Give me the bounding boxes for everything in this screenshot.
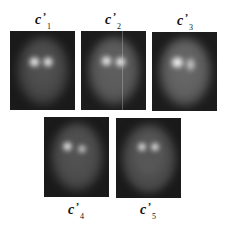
panel-label-c5: c’5 <box>140 203 156 219</box>
scan-image-c4 <box>44 117 109 197</box>
head-region <box>123 124 175 192</box>
scan-image-c3 <box>152 32 217 111</box>
label-base: c <box>35 12 41 27</box>
scan-image-c1 <box>10 31 75 110</box>
bright-spot-left <box>63 142 72 151</box>
label-prime: ’ <box>42 10 46 22</box>
label-base: c <box>177 13 183 28</box>
label-subscript: 4 <box>80 212 84 221</box>
label-prime: ’ <box>184 11 188 23</box>
label-base: c <box>105 12 111 27</box>
bright-spot-left <box>29 57 40 67</box>
label-prime: ’ <box>75 200 79 212</box>
panel-label-c1: c’1 <box>35 13 51 29</box>
label-subscript: 2 <box>117 22 121 31</box>
bright-spot-right <box>186 58 195 71</box>
panel-label-c4: c’4 <box>68 203 84 219</box>
head-region <box>17 37 69 105</box>
scan-image-c5 <box>116 118 181 198</box>
bright-spot-left <box>171 57 184 68</box>
artifact-line <box>122 31 123 110</box>
panel-label-c2: c’2 <box>105 13 121 29</box>
label-prime: ’ <box>147 200 151 212</box>
label-base: c <box>140 202 146 217</box>
scan-image-c2 <box>81 31 146 110</box>
label-subscript: 5 <box>152 212 156 221</box>
bright-spot-right <box>43 57 53 67</box>
head-region <box>159 38 211 106</box>
label-prime: ’ <box>112 10 116 22</box>
bright-spot-right <box>115 57 126 67</box>
bright-spot-left <box>138 143 146 151</box>
label-subscript: 3 <box>189 23 193 32</box>
head-region <box>88 37 140 105</box>
label-subscript: 1 <box>47 22 51 31</box>
label-base: c <box>68 202 74 217</box>
panel-label-c3: c’3 <box>177 14 193 30</box>
bright-spot-right <box>151 143 159 151</box>
bright-spot-right <box>78 145 86 153</box>
bright-spot-left <box>101 56 112 66</box>
head-region <box>51 123 103 191</box>
